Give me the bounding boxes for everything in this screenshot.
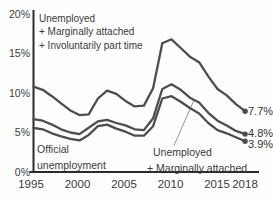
x-tick-label-2010: 2010 [158,178,184,190]
series-label-u6-line1: Unemployed [39,12,143,25]
series-label-u5-line2: + Marginally attached [147,161,247,177]
series-label-u5-line1: Unemployed [147,145,247,161]
y-tick-label-20: 20% [0,9,30,20]
end-value-label-u3: 3.9% [248,139,273,150]
unemployment-line-chart: 20% 15% 10% 5% 0% 1995 2000 2005 2010 20… [0,0,273,200]
series-label-official-line1: Official [37,142,106,158]
series-end-dot-1 [242,131,247,136]
y-tick-label-5: 5% [0,127,30,138]
series-end-dot-2 [242,139,247,144]
x-tick-label-2000: 2000 [65,178,91,190]
series-label-u6: Unemployed + Marginally attached + Invol… [39,12,143,52]
series-label-u5: Unemployed + Marginally attached [147,145,247,176]
x-tick-label-2018: 2018 [232,178,258,190]
x-tick-label-2005: 2005 [111,178,137,190]
y-tick-label-0: 0% [0,167,30,178]
x-tick-label-1995: 1995 [18,178,44,190]
x-tick-label-2015: 2015 [204,178,230,190]
series-label-official: Official unemployment [37,142,106,173]
series-label-u6-line2: + Marginally attached [39,25,143,38]
series-label-u6-line3: + Involuntarily part time [39,39,143,52]
annotation-leader-line [174,100,194,146]
series-end-dot-0 [242,109,247,114]
end-value-label-u5: 4.8% [248,128,273,139]
y-tick-label-10: 10% [0,88,30,99]
series-line-2 [34,96,246,141]
series-label-official-line2: unemployment [37,158,106,174]
y-tick-label-15: 15% [0,48,30,59]
end-value-label-u6: 7.7% [248,106,273,117]
